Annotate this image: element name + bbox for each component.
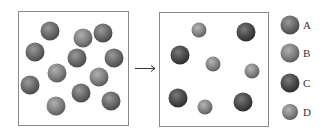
particle-a-icon <box>102 92 121 111</box>
legend-label: C <box>303 77 310 89</box>
particle-c-icon <box>169 89 188 108</box>
legend-label: B <box>303 47 310 59</box>
legend-item-b: B <box>281 44 311 63</box>
particle-d-icon <box>206 57 221 72</box>
particle-a-icon <box>68 49 87 68</box>
particle-b-icon <box>74 29 93 48</box>
legend: ABCD <box>281 16 312 121</box>
particle-a-icon <box>41 22 60 41</box>
particle-d-icon <box>198 100 213 115</box>
legend-item-c: C <box>281 74 311 93</box>
legend-item-d: D <box>282 104 311 120</box>
legend-label: A <box>303 19 311 31</box>
particle-a-icon <box>105 49 124 68</box>
particle-b-icon <box>48 64 67 83</box>
legend-swatch-d-icon <box>282 104 298 120</box>
legend-label: D <box>303 106 311 118</box>
legend-swatch-b-icon <box>281 44 300 63</box>
particle-a-icon <box>21 76 40 95</box>
reaction-diagram: ABCD <box>0 0 329 136</box>
legend-swatch-a-icon <box>281 16 300 35</box>
particle-a-icon <box>94 24 113 43</box>
particle-b-icon <box>47 97 66 116</box>
particle-d-icon <box>245 64 260 79</box>
legend-item-a: A <box>281 16 312 35</box>
legend-swatch-c-icon <box>281 74 300 93</box>
particle-a-icon <box>72 84 91 103</box>
particle-b-icon <box>90 68 109 87</box>
particle-a-icon <box>26 43 45 62</box>
particle-d-icon <box>192 23 207 38</box>
particle-c-icon <box>237 23 256 42</box>
reaction-arrow-icon <box>135 66 155 72</box>
particle-c-icon <box>234 93 253 112</box>
particle-c-icon <box>171 46 190 65</box>
